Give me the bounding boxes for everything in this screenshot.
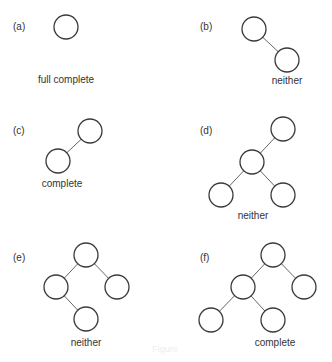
panel-label: (a)	[13, 21, 25, 32]
tree-edge	[94, 264, 108, 279]
panel-caption: neither	[238, 210, 269, 221]
panel-caption: neither	[71, 337, 102, 348]
panel-d: (d)neither	[200, 117, 295, 221]
panel-caption: full complete	[38, 74, 95, 85]
tree-edge	[251, 264, 265, 278]
tree-node	[261, 308, 285, 332]
tree-node	[271, 183, 295, 207]
panel-label: (f)	[200, 252, 209, 263]
tree-edge	[263, 37, 279, 52]
tree-node	[78, 119, 102, 143]
tree-edge	[251, 296, 265, 311]
tree-node	[74, 307, 98, 331]
figure-caption: Figure	[152, 344, 178, 354]
panel-e: (e)neither	[13, 243, 129, 348]
panel-f: (f)complete	[199, 243, 316, 348]
tree-node	[105, 275, 129, 299]
panel-a: (a)full complete	[13, 15, 95, 85]
tree-edge	[64, 296, 78, 310]
tree-node	[44, 275, 68, 299]
panel-caption: complete	[42, 178, 83, 189]
tree-node	[199, 308, 223, 332]
tree-edge	[260, 138, 275, 154]
panel-caption: neither	[272, 75, 303, 86]
panel-label: (e)	[13, 252, 25, 263]
tree-node	[74, 243, 98, 267]
tree-node	[242, 17, 266, 41]
panel-caption: complete	[255, 337, 296, 348]
panel-b: (b)neither	[200, 17, 303, 86]
panel-label: (d)	[200, 125, 212, 136]
tree-edge	[281, 264, 295, 279]
tree-edge	[219, 296, 234, 312]
tree-node	[261, 243, 285, 267]
tree-edge	[64, 264, 78, 278]
tree-node	[275, 48, 299, 72]
tree-node	[292, 275, 316, 299]
tree-node	[240, 150, 264, 174]
tree-edge	[67, 139, 81, 153]
tree-node	[209, 183, 233, 207]
panel-c: (c)complete	[13, 119, 102, 189]
tree-edge	[260, 171, 275, 187]
binary-tree-diagram: (a)full complete(b)neither(c)complete(d)…	[0, 0, 332, 362]
panel-label: (c)	[13, 125, 25, 136]
tree-node	[271, 117, 295, 141]
tree-edge	[229, 171, 244, 187]
tree-node	[54, 15, 78, 39]
tree-node	[231, 275, 255, 299]
tree-node	[46, 149, 70, 173]
panel-label: (b)	[200, 21, 212, 32]
